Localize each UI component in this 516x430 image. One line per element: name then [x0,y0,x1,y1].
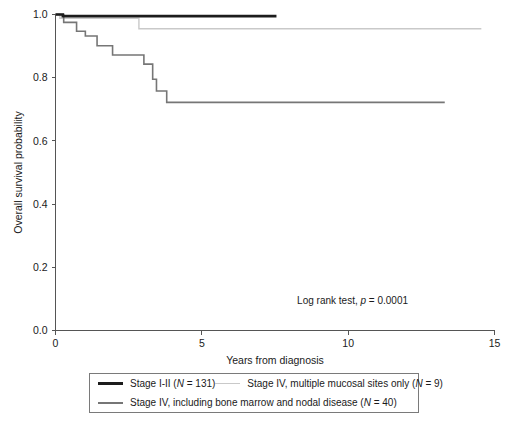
x-tick-label-3: 15 [489,337,501,349]
y-tick-label-3: 0.6 [33,135,48,147]
x-tick-label-0: 0 [53,337,59,349]
legend-entry-stage-iv-marrow: Stage IV, including bone marrow and noda… [98,397,397,408]
x-axis-title: Years from diagnosis [226,354,324,366]
axes-group [52,14,495,335]
survival-curve-0 [56,15,277,17]
legend-row-1: Stage I-II (N = 131) Stage IV, multiple … [90,374,418,393]
survival-curve-2 [56,15,445,103]
legend-label-stage-iv-marrow: Stage IV, including bone marrow and noda… [130,397,397,408]
axis-labels-group: 0.00.20.40.60.81.0051015Years from diagn… [12,8,500,365]
annotation-group: Log rank test, p = 0.0001 [297,295,408,306]
y-axis-title: Overall survival probability [12,110,24,233]
log-rank-annotation: Log rank test, p = 0.0001 [297,295,408,306]
legend-row-2: Stage IV, including bone marrow and noda… [90,393,418,412]
kaplan-meier-figure: 0.00.20.40.60.81.0051015Years from diagn… [0,0,516,430]
legend-entry-stage-iv-mucosal: Stage IV, multiple mucosal sites only (N… [215,378,443,389]
legend-swatch-stage-i-ii [98,382,123,385]
legend-swatch-stage-iv-mucosal [215,383,240,384]
legend-entry-stage-i-ii: Stage I-II (N = 131) [98,378,215,389]
legend-label-stage-iv-mucosal: Stage IV, multiple mucosal sites only (N… [247,378,443,389]
y-tick-label-4: 0.8 [33,71,48,83]
y-tick-label-2: 0.4 [33,198,48,210]
curves-group [56,15,482,103]
y-tick-label-0: 0.0 [33,324,48,336]
legend: Stage I-II (N = 131) Stage IV, multiple … [89,373,419,413]
x-tick-label-2: 10 [342,337,354,349]
legend-swatch-stage-iv-marrow [98,402,123,404]
survival-plot-svg: 0.00.20.40.60.81.0051015Years from diagn… [0,0,516,430]
y-tick-label-1: 0.2 [33,261,48,273]
y-tick-label-5: 1.0 [33,8,48,20]
legend-label-stage-i-ii: Stage I-II (N = 131) [130,378,215,389]
x-tick-label-1: 5 [199,337,205,349]
